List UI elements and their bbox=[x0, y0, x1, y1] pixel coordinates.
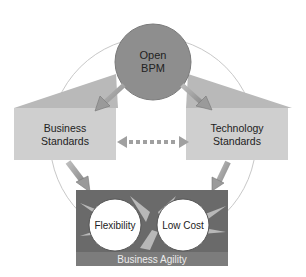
low-cost-label: Low Cost bbox=[157, 219, 209, 232]
flexibility-label: Flexibility bbox=[89, 219, 141, 232]
hub-label-line2: BPM bbox=[123, 62, 183, 75]
business-agility-title: Business Agility bbox=[76, 253, 228, 266]
business-standards-line1: Business bbox=[14, 122, 116, 135]
technology-standards-line2: Standards bbox=[186, 135, 288, 148]
hub-label: Open BPM bbox=[123, 49, 183, 75]
technology-standards-label: Technology Standards bbox=[186, 122, 288, 148]
hub-label-line1: Open bbox=[123, 49, 183, 62]
technology-standards-line1: Technology bbox=[186, 122, 288, 135]
business-standards-line2: Standards bbox=[14, 135, 116, 148]
business-standards-label: Business Standards bbox=[14, 122, 116, 148]
